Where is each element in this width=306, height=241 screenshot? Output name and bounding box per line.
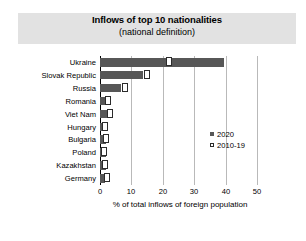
category-label: Germany	[4, 174, 96, 183]
legend-swatch-open-square-icon	[210, 143, 214, 147]
marker-2010-19	[104, 173, 110, 182]
marker-2010-19	[101, 147, 107, 156]
category-labels: Ukraine Slovak Republic Russia Romania V…	[4, 56, 96, 185]
marker-2010-19	[166, 57, 172, 66]
category-label: Hungary	[4, 123, 96, 132]
legend-item-2010-19: 2010-19	[210, 139, 245, 150]
marker-2010-19	[107, 109, 113, 118]
legend-label: 2020	[217, 129, 234, 140]
category-label: Poland	[4, 148, 96, 157]
category-label: Russia	[4, 84, 96, 93]
chart-title: Inflows of top 10 nationalities	[18, 14, 296, 25]
gridline-50	[257, 56, 258, 185]
bar-row	[100, 95, 257, 108]
category-label: Kazakhstan	[4, 161, 96, 170]
category-label: Slovak Republic	[4, 71, 96, 80]
marker-2010-19	[105, 96, 111, 105]
bar-row	[100, 159, 257, 172]
x-tick-label: 0	[90, 187, 110, 196]
marker-2010-19	[102, 160, 108, 169]
chart-figure: Inflows of top 10 nationalities (nationa…	[0, 0, 306, 241]
legend-item-2020: 2020	[210, 128, 245, 139]
x-tick-label: 20	[153, 187, 173, 196]
x-tick-label: 50	[247, 187, 267, 196]
x-tick-label: 40	[216, 187, 236, 196]
category-label: Viet Nam	[4, 110, 96, 119]
bar-row	[100, 172, 257, 185]
x-axis-label: % of total inflows of foreign population	[60, 200, 300, 209]
marker-2010-19	[102, 122, 108, 131]
bar-row	[100, 56, 257, 69]
bar-row	[100, 108, 257, 121]
x-tick-label: 10	[121, 187, 141, 196]
category-label: Bulgaria	[4, 135, 96, 144]
plot-area	[100, 56, 257, 185]
category-label: Romania	[4, 97, 96, 106]
chart-legend: 2020 2010-19	[210, 128, 245, 150]
bar-row	[100, 69, 257, 82]
legend-label: 2010-19	[217, 140, 245, 151]
legend-swatch-filled-square-icon	[210, 132, 214, 136]
marker-2010-19	[144, 70, 150, 79]
marker-2010-19	[122, 83, 128, 92]
x-tick-label: 30	[184, 187, 204, 196]
category-label: Ukraine	[4, 58, 96, 67]
bar-2020	[100, 58, 224, 67]
chart-subtitle: (national definition)	[18, 27, 296, 37]
bar-2020	[100, 84, 121, 93]
bar-row	[100, 82, 257, 95]
bar-2020	[100, 71, 143, 80]
marker-2010-19	[103, 134, 109, 143]
